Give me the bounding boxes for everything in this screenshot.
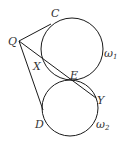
label-D: D (34, 118, 44, 131)
label-Q: Q (8, 35, 17, 48)
label-E: E (69, 69, 78, 82)
geometry-figure: C Q X E Y D ω1 ω2 (0, 0, 124, 151)
segment-QY (19, 41, 96, 98)
segment-QD (19, 41, 43, 110)
label-C: C (51, 7, 60, 20)
circle-omega2 (42, 80, 98, 136)
label-omega1: ω1 (104, 47, 117, 61)
diagram-canvas: C Q X E Y D ω1 ω2 (0, 0, 124, 151)
label-X: X (32, 60, 42, 73)
label-omega2: ω2 (96, 118, 110, 132)
label-Y: Y (97, 94, 106, 107)
